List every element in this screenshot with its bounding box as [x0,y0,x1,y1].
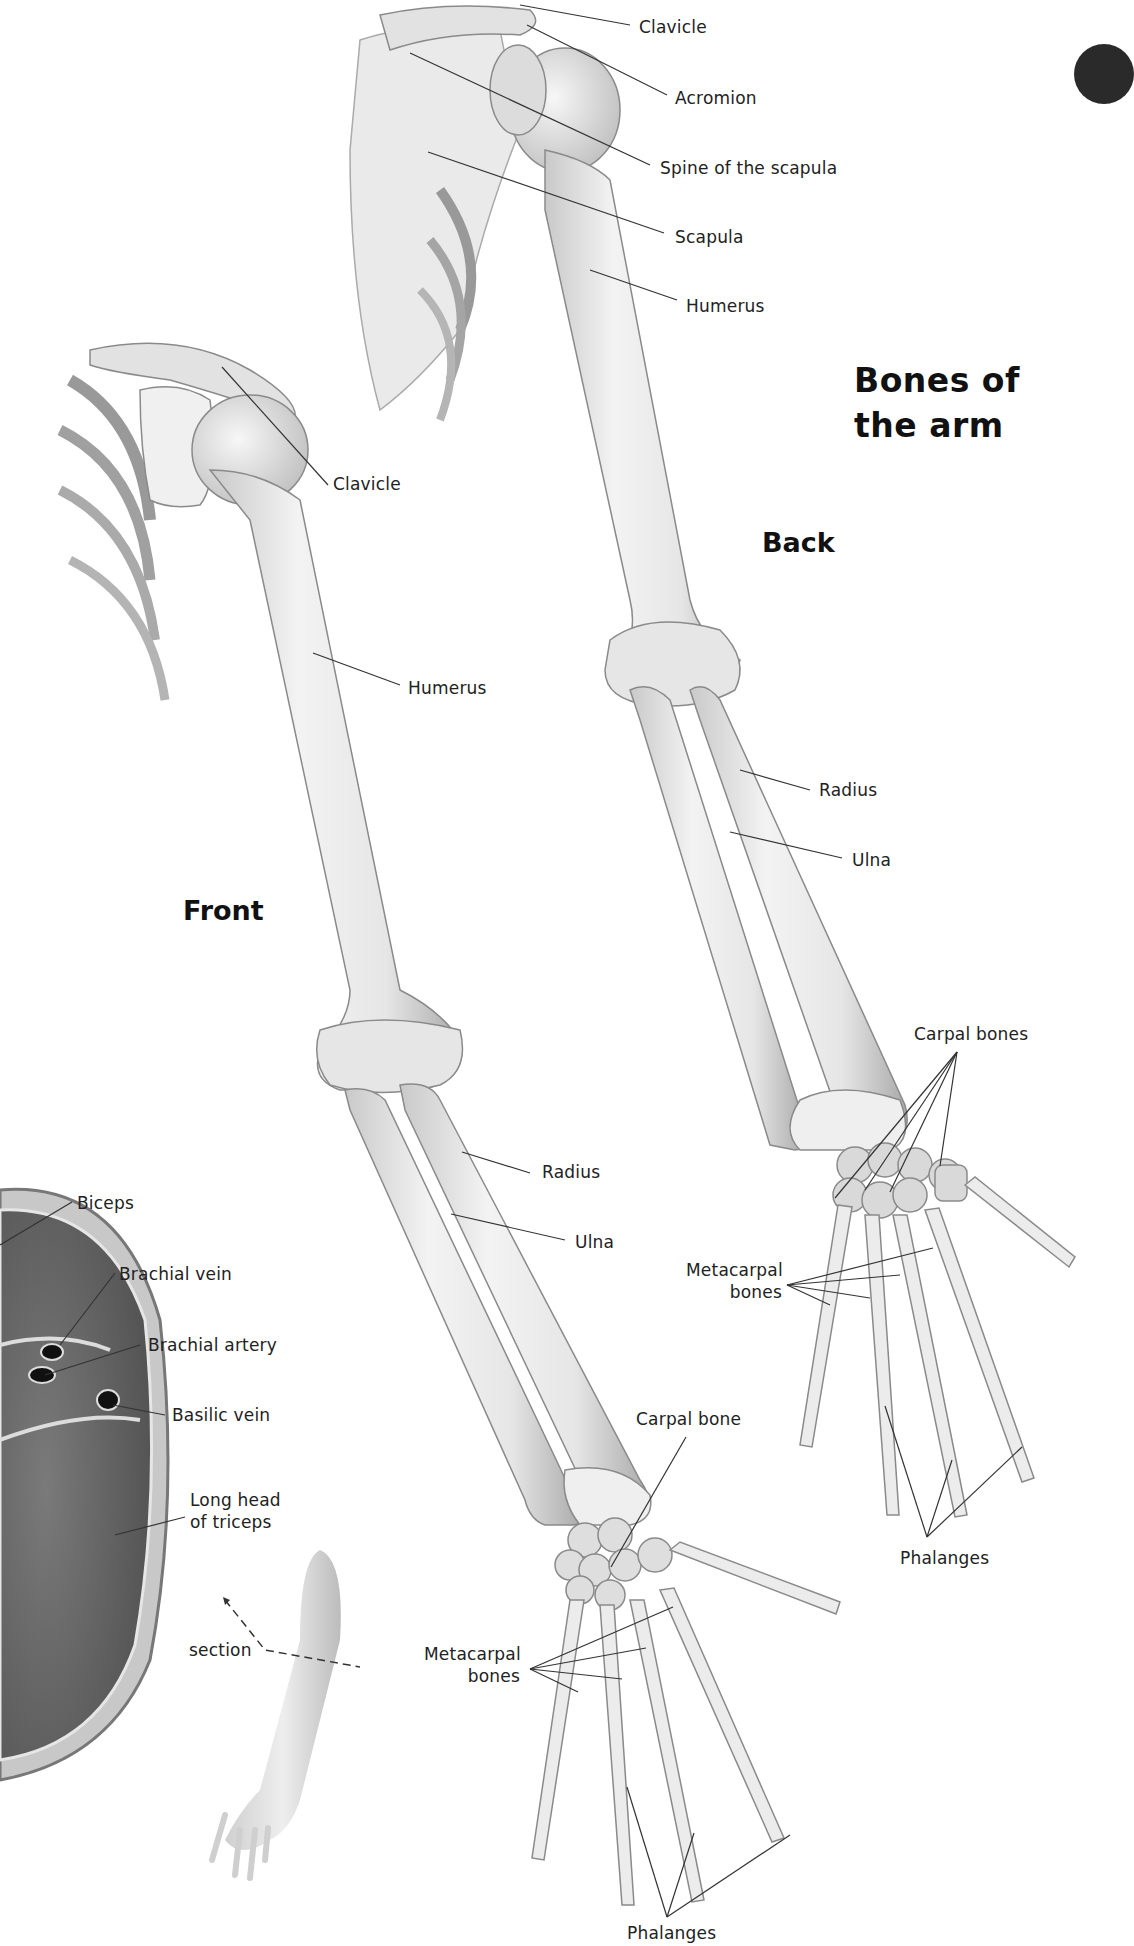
label-back-acromion: Acromion [675,87,757,109]
label-back-spine-of-scapula: Spine of the scapula [660,157,837,179]
label-front-radius: Radius [542,1161,600,1183]
label-brachial-artery: Brachial artery [148,1334,277,1356]
view-label-front: Front [183,895,264,926]
label-brachial-vein: Brachial vein [119,1263,232,1285]
label-back-scapula: Scapula [675,226,744,248]
label-front-metacarpal-line1: Metacarpal [424,1643,520,1665]
view-label-back: Back [762,527,835,558]
title-line-1: Bones of [854,359,1020,404]
label-back-clavicle: Clavicle [639,16,707,38]
title-line-2: the arm [854,404,1020,449]
label-front-metacarpal-bones: Metacarpal bones [424,1643,520,1687]
label-long-head-line1: Long head [190,1489,281,1511]
page-tab-marker [1074,44,1134,104]
label-back-ulna: Ulna [852,849,891,871]
label-long-head-line2: of triceps [190,1511,281,1533]
label-front-clavicle: Clavicle [333,473,401,495]
label-back-phalanges: Phalanges [900,1547,989,1569]
label-biceps: Biceps [77,1192,134,1214]
label-front-metacarpal-line2: bones [424,1665,520,1687]
label-back-metacarpal-line2: bones [686,1281,782,1303]
label-back-metacarpal-bones: Metacarpal bones [686,1259,782,1303]
label-back-carpal-bones: Carpal bones [914,1023,1028,1045]
section-locator-arm [212,1550,360,1878]
label-back-humerus: Humerus [686,295,765,317]
label-front-carpal-bone: Carpal bone [636,1408,741,1430]
label-front-humerus: Humerus [408,677,487,699]
label-long-head-of-triceps: Long head of triceps [190,1489,281,1533]
page-title: Bones of the arm [854,359,1020,448]
label-back-metacarpal-line1: Metacarpal [686,1259,782,1281]
label-front-ulna: Ulna [575,1231,614,1253]
label-section: section [189,1639,252,1661]
label-basilic-vein: Basilic vein [172,1404,270,1426]
label-back-radius: Radius [819,779,877,801]
label-front-phalanges: Phalanges [627,1922,716,1944]
